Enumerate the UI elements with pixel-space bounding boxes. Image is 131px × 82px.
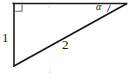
right-angle-marker-icon	[15, 5, 22, 12]
triangle-side-hypotenuse	[14, 4, 127, 66]
triangle-figure: 1 2 α ı ı	[0, 0, 131, 82]
label-hypotenuse: 2	[62, 38, 69, 51]
faint-artifact-bottom: ı	[49, 66, 51, 75]
faint-artifact-top: ı	[48, 1, 50, 10]
label-vertical-leg: 1	[2, 31, 9, 44]
angle-arc-marker-icon	[107, 5, 110, 12]
label-angle-alpha: α	[96, 2, 101, 12]
